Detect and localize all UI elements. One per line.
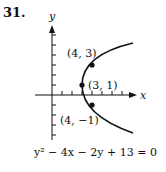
y-axis-label: y	[48, 10, 56, 23]
point-4-3	[89, 62, 94, 67]
equation: y² − 4x − 2y + 13 = 0	[34, 146, 157, 159]
label-point-4-neg1: (4, −1)	[60, 114, 99, 127]
y-ticks	[52, 35, 56, 135]
point-4-neg1	[89, 102, 94, 107]
label-point-4-3: (4, 3)	[67, 47, 97, 60]
x-axis-label: x	[140, 89, 147, 102]
y-axis-arrow-icon	[49, 25, 55, 33]
x-axis-arrow-icon	[129, 92, 137, 98]
point-3-1	[79, 82, 84, 87]
label-point-3-1: (3, 1)	[88, 79, 118, 92]
